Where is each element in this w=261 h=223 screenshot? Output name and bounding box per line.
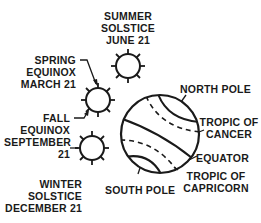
label-line: EQUATOR <box>196 152 249 164</box>
label-line: SEPTEMBER <box>4 136 70 148</box>
label-tropic-of-cancer: TROPIC OF CANCER <box>198 116 260 140</box>
label-line: SUMMER <box>98 10 158 22</box>
sun-icon-summer <box>111 49 145 83</box>
label-line: NORTH POLE <box>180 83 251 95</box>
label-line: 21 <box>4 148 70 160</box>
label-line: TROPIC OF <box>198 116 260 128</box>
label-line: JUNE 21 <box>98 34 158 46</box>
label-line: SPRING <box>14 54 76 66</box>
label-line: SOUTH POLE <box>105 184 175 196</box>
label-line: DECEMBER 21 <box>4 202 82 214</box>
label-winter-solstice: WINTER SOLSTICE DECEMBER 21 <box>4 178 82 214</box>
label-line: TROPIC OF <box>180 170 252 182</box>
label-line: SOLSTICE <box>98 22 158 34</box>
label-line: EQUINOX <box>4 124 70 136</box>
label-line: EQUINOX <box>14 66 76 78</box>
earth-globe-icon <box>120 94 204 176</box>
sun-icon-fall <box>75 131 109 165</box>
label-line: SOLSTICE <box>4 190 82 202</box>
label-south-pole: SOUTH POLE <box>105 184 175 196</box>
label-line: FALL <box>4 112 70 124</box>
label-spring-equinox: SPRING EQUINOX MARCH 21 <box>14 54 76 90</box>
label-line: CANCER <box>198 128 260 140</box>
label-fall-equinox: FALL EQUINOX SEPTEMBER 21 <box>4 112 70 160</box>
label-equator: EQUATOR <box>196 152 249 164</box>
label-north-pole: NORTH POLE <box>180 83 251 95</box>
label-line: CAPRICORN <box>180 182 252 194</box>
sun-icon-spring <box>81 83 115 117</box>
label-summer-solstice: SUMMER SOLSTICE JUNE 21 <box>98 10 158 46</box>
label-line: MARCH 21 <box>14 78 76 90</box>
label-tropic-of-capricorn: TROPIC OF CAPRICORN <box>180 170 252 194</box>
label-line: WINTER <box>4 178 82 190</box>
